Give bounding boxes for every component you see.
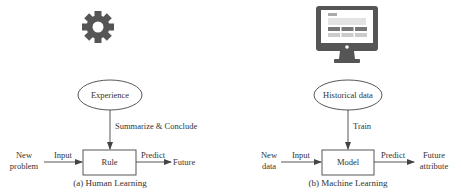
train-label: Train — [353, 121, 372, 131]
rule-label: Rule — [101, 157, 117, 167]
predict-label: Predict — [381, 150, 406, 160]
caption-machine-learning: (b) Machine Learning — [309, 178, 388, 188]
future-attribute-label-line1: Future — [423, 150, 445, 160]
new-problem-label-line1: New — [16, 150, 33, 160]
new-data-label-line1: New — [261, 150, 278, 160]
historical-data-label: Historical data — [323, 90, 373, 100]
new-data-label-line2: data — [262, 161, 276, 171]
model-label: Model — [337, 157, 360, 167]
panel-human-learning: Experience Summarize & Conclude Rule New… — [10, 11, 198, 188]
future-label: Future — [173, 157, 195, 167]
experience-label: Experience — [91, 90, 129, 100]
caption-human-learning: (a) Human Learning — [73, 178, 147, 188]
future-attribute-label-line2: attribute — [420, 161, 449, 171]
summarize-label: Summarize & Conclude — [115, 121, 197, 131]
input-label: Input — [292, 150, 311, 160]
panel-machine-learning: Historical data Train Model New data Inp… — [261, 6, 448, 188]
predict-label: Predict — [141, 150, 166, 160]
learning-comparison-diagram: Experience Summarize & Conclude Rule New… — [0, 0, 461, 195]
monitor-icon — [316, 6, 378, 63]
new-problem-label-line2: problem — [10, 161, 39, 171]
input-label: Input — [54, 150, 73, 160]
gear-icon — [82, 11, 114, 43]
